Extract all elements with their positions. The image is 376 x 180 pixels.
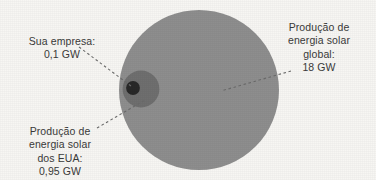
callout-global-value: 18 GW [266,61,372,74]
bubble-chart-figure: Sua empresa: 0,1 GW Produção de energia … [0,0,376,180]
callout-company-label: Sua empresa: [29,35,96,47]
callout-usa-label: Produção de energia solar dos EUA: [29,125,91,163]
callout-company: Sua empresa: 0,1 GW [8,22,116,75]
callout-usa: Produção de energia solar dos EUA: 0,95 … [2,112,118,180]
bubble-company [126,81,140,95]
callout-company-value: 0,1 GW [8,48,116,61]
callout-global: Produção de energia solar global: 18 GW [266,8,372,87]
callout-global-label: Produção de energia solar global: [288,21,350,59]
callout-usa-value: 0,95 GW [2,165,118,178]
